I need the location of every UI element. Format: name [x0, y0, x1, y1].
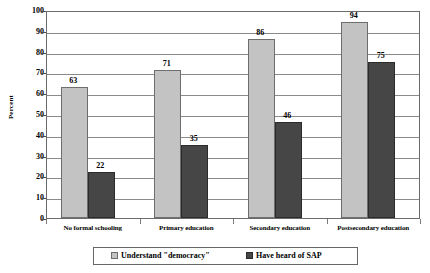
y-axis-title: Percent: [7, 77, 15, 137]
y-tick-mark: [41, 115, 46, 116]
y-tick-label: 10: [14, 194, 44, 202]
x-tick-mark: [420, 219, 421, 224]
y-tick-mark: [41, 94, 46, 95]
bar: [154, 70, 181, 218]
bar-value-label: 71: [147, 60, 186, 68]
y-tick-mark: [41, 136, 46, 137]
x-tick-mark: [46, 219, 47, 224]
y-tick-mark: [41, 157, 46, 158]
y-tick-mark: [41, 32, 46, 33]
legend-swatch-icon: [111, 252, 118, 259]
bar: [181, 145, 208, 218]
x-tick-mark: [233, 219, 234, 224]
legend-entry: Understand "democracy": [111, 251, 210, 260]
bar: [248, 39, 275, 218]
bar: [88, 172, 115, 218]
bar-value-label: 94: [334, 12, 373, 20]
bar-value-label: 75: [361, 52, 400, 60]
bar-chart: Percent 1009080706050403020100 No formal…: [0, 0, 430, 273]
x-tick-mark: [327, 219, 328, 224]
bar: [61, 87, 88, 218]
y-tick-label: 20: [14, 173, 44, 181]
legend-label: Understand "democracy": [121, 251, 210, 260]
x-tick-mark: [140, 219, 141, 224]
y-tick-label: 0: [14, 215, 44, 223]
bar: [368, 62, 395, 218]
bar-value-label: 35: [174, 135, 213, 143]
y-tick-mark: [41, 198, 46, 199]
y-tick-label: 90: [14, 28, 44, 36]
y-tick-label: 60: [14, 90, 44, 98]
y-tick-label: 30: [14, 153, 44, 161]
x-category-label: Postsecondary education: [317, 225, 430, 233]
y-tick-label: 50: [14, 111, 44, 119]
y-tick-mark: [41, 177, 46, 178]
y-tick-label: 100: [14, 7, 44, 15]
bar-value-label: 63: [54, 77, 93, 85]
legend-label: Have heard of SAP: [256, 251, 322, 260]
bar-value-label: 22: [81, 162, 120, 170]
y-tick-mark: [41, 53, 46, 54]
bar-value-label: 46: [268, 112, 307, 120]
plot-area: [46, 11, 420, 219]
legend-entry: Have heard of SAP: [246, 251, 322, 260]
y-tick-label: 40: [14, 132, 44, 140]
y-tick-mark: [41, 73, 46, 74]
legend: Understand "democracy"Have heard of SAP: [93, 247, 358, 265]
y-tick-mark: [41, 11, 46, 12]
y-tick-label: 80: [14, 49, 44, 57]
bar-value-label: 86: [241, 29, 280, 37]
legend-swatch-icon: [246, 252, 253, 259]
y-tick-label: 70: [14, 69, 44, 77]
bar: [275, 122, 302, 218]
